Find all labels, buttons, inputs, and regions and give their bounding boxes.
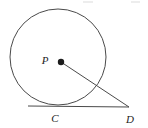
label-center-p: P xyxy=(41,54,49,66)
label-tangent-point-c: C xyxy=(51,112,59,124)
geometry-figure: P C D xyxy=(0,0,148,128)
tangent-line-segment-cd xyxy=(28,106,129,107)
center-point-dot xyxy=(58,59,64,65)
radius-to-external-point-segment-pd xyxy=(61,62,129,107)
label-external-point-d: D xyxy=(125,113,134,125)
circle-shape xyxy=(10,9,106,105)
geometry-canvas: P C D xyxy=(0,0,148,128)
